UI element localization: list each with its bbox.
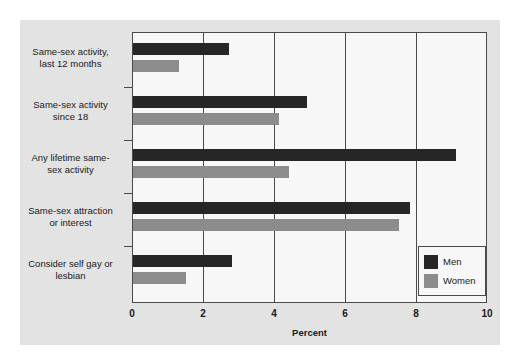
gridline-8	[416, 33, 417, 302]
bar-women-same-sex-attraction-or-interest	[133, 219, 399, 231]
x-tick-label-6: 6	[330, 308, 360, 319]
bar-men-same-sex-activity-since-18	[133, 96, 307, 108]
legend-item-men: Men	[424, 252, 485, 271]
y-axis-tick	[124, 246, 133, 247]
bar-women-consider-self-gay-or-lesbian	[133, 272, 186, 284]
x-tick-label-10: 10	[472, 308, 502, 319]
category-label-line: lesbian	[14, 270, 127, 282]
category-label-line: Same-sex attraction	[14, 205, 127, 217]
category-label-same-sex-activity-since-18: Same-sex activity since 18	[14, 99, 127, 123]
x-tick-label-0: 0	[117, 308, 147, 319]
x-axis-title: Percent	[132, 327, 487, 338]
bar-men-same-sex-activity-last-12-months	[133, 43, 229, 55]
category-label-line: or interest	[14, 217, 127, 229]
x-tick-label-2: 2	[188, 308, 218, 319]
category-label-line: Consider self gay or	[14, 258, 127, 270]
category-label-any-lifetime-same-sex-activity: Any lifetime same- sex activity	[14, 152, 127, 176]
bar-women-any-lifetime-same-sex-activity	[133, 166, 289, 178]
legend-label-women: Women	[443, 275, 476, 286]
bar-men-any-lifetime-same-sex-activity	[133, 149, 456, 161]
category-label-line: Any lifetime same-	[14, 152, 127, 164]
category-label-line: last 12 months	[14, 58, 127, 70]
legend-swatch-men-icon	[424, 255, 438, 269]
category-label-same-sex-activity-last-12-months: Same-sex activity, last 12 months	[14, 46, 127, 70]
legend-item-women: Women	[424, 271, 485, 290]
legend: Men Women	[418, 246, 486, 296]
x-tick-label-4: 4	[259, 308, 289, 319]
legend-swatch-women-icon	[424, 274, 438, 288]
category-label-consider-self-gay-or-lesbian: Consider self gay or lesbian	[14, 258, 127, 282]
figure: Same-sex activity, last 12 months Same-s…	[0, 0, 522, 363]
bar-women-same-sex-activity-last-12-months	[133, 60, 179, 72]
category-label-line: Same-sex activity,	[14, 46, 127, 58]
legend-label-men: Men	[443, 256, 461, 267]
bar-men-same-sex-attraction-or-interest	[133, 202, 410, 214]
bar-women-same-sex-activity-since-18	[133, 113, 279, 125]
category-label-line: sex activity	[14, 164, 127, 176]
category-label-same-sex-attraction-or-interest: Same-sex attraction or interest	[14, 205, 127, 229]
y-axis-tick	[124, 193, 133, 194]
y-axis-tick	[124, 87, 133, 88]
bar-men-consider-self-gay-or-lesbian	[133, 255, 232, 267]
x-tick-label-8: 8	[401, 308, 431, 319]
y-axis-tick	[124, 140, 133, 141]
category-label-line: Same-sex activity	[14, 99, 127, 111]
gridline-6	[345, 33, 346, 302]
category-label-line: since 18	[14, 111, 127, 123]
